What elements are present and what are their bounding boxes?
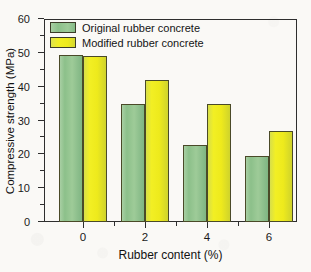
- y-tick-20: 20: [38, 153, 44, 154]
- bar-original-2: [121, 104, 145, 222]
- yellow-swatch-icon: [50, 37, 76, 48]
- bar-original-4: [183, 145, 207, 222]
- y-tick-40: 40: [38, 86, 44, 87]
- y-tick-label-10: 10: [18, 182, 30, 194]
- bar-original-6: [245, 156, 269, 222]
- x-axis-title-label: Rubber content (%): [118, 248, 222, 262]
- y-tick-label-20: 20: [18, 148, 30, 160]
- y-tick-0: 0: [38, 221, 44, 222]
- green-swatch-icon: [50, 22, 76, 33]
- x-axis-title: Rubber content (%): [44, 248, 297, 262]
- bar-group-6: [245, 19, 293, 222]
- y-tick-10: 10: [38, 187, 44, 188]
- y-tick-minor: [40, 204, 44, 205]
- x-tick-minor: [114, 222, 115, 226]
- x-tick-label-4: 4: [204, 231, 210, 243]
- y-tick-label-50: 50: [18, 47, 30, 59]
- chart-legend: Original rubber concrete Modified rubber…: [50, 21, 204, 49]
- legend-entry-modified: Modified rubber concrete: [50, 36, 204, 49]
- y-tick-minor: [40, 136, 44, 137]
- x-tick-label-6: 6: [266, 231, 272, 243]
- x-tick-0: [83, 222, 84, 228]
- legend-label-original: Original rubber concrete: [82, 22, 200, 34]
- bar-group-4: [183, 19, 231, 222]
- bar-modified-0: [83, 56, 107, 222]
- y-tick-minor: [40, 103, 44, 104]
- y-tick-label-0: 0: [24, 216, 30, 228]
- bar-modified-6: [269, 131, 293, 222]
- x-tick-6: [269, 222, 270, 228]
- plot-area: 0102030405060 0246: [44, 19, 297, 222]
- y-tick-minor: [40, 69, 44, 70]
- y-tick-minor: [40, 170, 44, 171]
- y-tick-50: 50: [38, 52, 44, 53]
- chart-figure: Compressive strength (MPa) 0102030405060…: [0, 0, 311, 272]
- legend-label-modified: Modified rubber concrete: [82, 37, 204, 49]
- bar-original-0: [59, 55, 83, 222]
- y-tick-30: 30: [38, 120, 44, 121]
- y-axis-title-label: Compressive strength (MPa): [4, 47, 16, 193]
- x-tick-label-2: 2: [142, 231, 148, 243]
- bar-group-0: [59, 19, 107, 222]
- x-tick-minor: [176, 222, 177, 226]
- x-tick-label-0: 0: [80, 231, 86, 243]
- bar-modified-4: [207, 104, 231, 222]
- bar-group-2: [121, 19, 169, 222]
- y-tick-minor: [40, 35, 44, 36]
- y-tick-label-30: 30: [18, 115, 30, 127]
- x-tick-4: [207, 222, 208, 228]
- bar-modified-2: [145, 80, 169, 222]
- y-tick-label-40: 40: [18, 81, 30, 93]
- y-axis-title: Compressive strength (MPa): [2, 19, 18, 222]
- legend-entry-original: Original rubber concrete: [50, 21, 204, 34]
- y-tick-60: 60: [38, 18, 44, 19]
- x-tick-minor: [238, 222, 239, 226]
- y-tick-label-60: 60: [18, 13, 30, 25]
- x-tick-2: [145, 222, 146, 228]
